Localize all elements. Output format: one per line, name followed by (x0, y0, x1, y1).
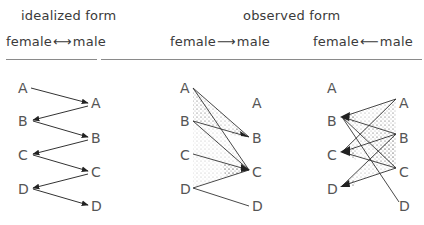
node-left-d: D (327, 181, 338, 197)
edge-d-to-d (193, 188, 249, 206)
node-left-c: C (327, 147, 337, 163)
node-left-a: A (180, 80, 190, 96)
panel-female-from-male (340, 99, 399, 202)
node-right-b: B (91, 130, 101, 146)
node-left-d: D (18, 181, 29, 197)
edge-d-to-d (33, 189, 88, 205)
edge-c-to-c (33, 155, 88, 171)
edge-a-to-a (31, 88, 88, 103)
node-right-d: D (252, 198, 263, 214)
node-right-a: A (252, 95, 262, 111)
edge-b-to-c (33, 140, 88, 154)
node-right-c: C (399, 164, 409, 180)
node-left-c: C (18, 147, 28, 163)
node-left-a: A (18, 80, 28, 96)
node-right-a: A (399, 95, 409, 111)
node-right-d: D (399, 198, 410, 214)
node-left-a: A (327, 80, 337, 96)
node-right-d: D (91, 198, 102, 214)
panel-female-to-male (193, 88, 250, 206)
node-right-c: C (91, 164, 101, 180)
node-right-b: B (252, 130, 262, 146)
node-right-b: B (399, 130, 409, 146)
node-left-b: B (327, 113, 337, 129)
edge-c-to-d (33, 174, 88, 188)
arrowhead-d (340, 180, 350, 187)
arrowhead-c (340, 146, 350, 156)
edge-a-to-b (33, 106, 88, 120)
node-left-b: B (180, 113, 190, 129)
edge-b-to-b (33, 121, 88, 137)
panel-idealized (31, 88, 88, 205)
node-right-c: C (252, 164, 262, 180)
diagram-canvas: A B C D A B C D A B C D A B C D (0, 0, 424, 225)
node-left-d: D (180, 181, 191, 197)
node-left-b: B (18, 113, 28, 129)
node-right-a: A (91, 95, 101, 111)
node-left-c: C (180, 147, 190, 163)
